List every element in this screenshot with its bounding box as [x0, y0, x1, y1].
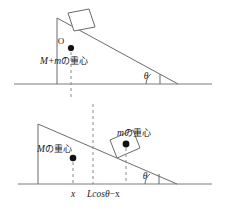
upper-center-of-mass-dot: [68, 45, 74, 51]
upper-diagram: O M+mの重心 θ: [14, 9, 212, 100]
lower-com-small-label: mの重心: [117, 127, 151, 138]
lower-dim-left-label: x: [70, 189, 76, 199]
figure-canvas: O M+mの重心 θ: [0, 0, 225, 210]
lower-dim-right-tail: −x: [110, 189, 120, 199]
upper-com-label-math: M+m: [39, 56, 61, 66]
lower-diagram: Mの重心 mの重心 x Lcosθ−x θ: [18, 104, 212, 199]
lower-angle-label: θ: [143, 171, 148, 181]
upper-angle-label: θ: [144, 71, 149, 81]
upper-point-label-o: O: [58, 36, 65, 46]
upper-com-label: M+mの重心: [39, 55, 88, 66]
lower-dim-right-math: Lcos: [86, 189, 105, 199]
lower-com-big-jp: の重心: [45, 143, 72, 154]
upper-block: [68, 9, 95, 31]
lower-com-small-jp: の重心: [124, 127, 151, 138]
upper-com-label-jp: の重心: [61, 55, 88, 66]
lower-incline-hypotenuse: [38, 124, 177, 184]
lower-com-big-label: Mの重心: [36, 143, 72, 154]
lower-small-mass-dot: [123, 141, 130, 148]
lower-dim-right-label: Lcosθ−x: [86, 189, 120, 199]
physics-figure: O M+mの重心 θ: [0, 0, 225, 210]
lower-big-mass-dot: [70, 155, 77, 162]
